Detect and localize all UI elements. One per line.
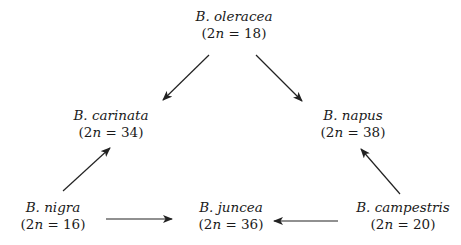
brassica-triangle-diagram: B. oleracea (2n = 18) B. carinata (2n = … [0,0,461,245]
species-name: B. carinata [73,107,148,124]
chromosome-count: (2n = 34) [73,124,148,141]
arrow-icon [256,55,302,101]
species-name: B. campestris [356,199,450,216]
node-carinata: B. carinata (2n = 34) [73,107,148,141]
species-name: B. juncea [199,199,264,216]
chromosome-count: (2n = 20) [356,216,450,233]
node-oleracea: B. oleracea (2n = 18) [195,8,272,42]
chromosome-count: (2n = 38) [321,124,386,141]
chromosome-count: (2n = 16) [21,216,86,233]
node-nigra: B. nigra (2n = 16) [21,199,86,233]
chromosome-count: (2n = 36) [199,216,264,233]
species-name: B. napus [321,107,386,124]
arrow-icon [163,55,209,100]
node-juncea: B. juncea (2n = 36) [199,199,264,233]
arrow-icon [63,148,110,191]
node-campestris: B. campestris (2n = 20) [356,199,450,233]
node-napus: B. napus (2n = 38) [321,107,386,141]
species-name: B. nigra [21,199,86,216]
chromosome-count: (2n = 18) [195,25,272,42]
arrow-icon [361,149,400,194]
species-name: B. oleracea [195,8,272,25]
